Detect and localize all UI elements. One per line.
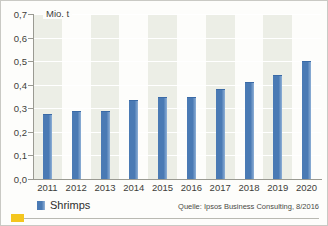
bar-2020 (302, 61, 311, 179)
y-axis-tick-label: 0,5 (1, 56, 27, 67)
bar-2011 (43, 114, 52, 179)
gridline (33, 61, 321, 62)
plot-area (33, 14, 321, 179)
y-axis-tick-label: 0,0 (1, 174, 27, 185)
y-axis-tick-label: 0,3 (1, 103, 27, 114)
chart-figure: Mio. t Shrimps Quelle: Ipsos Business Co… (0, 0, 328, 226)
y-axis-tick (28, 179, 33, 180)
y-axis-line (33, 14, 34, 180)
y-axis-tick (28, 38, 33, 39)
y-axis-tick-label: 0,2 (1, 126, 27, 137)
bar-2019 (273, 75, 282, 179)
bar-2013 (101, 111, 110, 179)
y-axis-tick (28, 155, 33, 156)
y-axis-tick (28, 14, 33, 15)
accent-mark (11, 214, 24, 222)
bar-2014 (129, 100, 138, 179)
y-axis-tick-label: 0,7 (1, 9, 27, 20)
bar-2012 (72, 111, 81, 179)
bar-2016 (187, 97, 196, 180)
legend-label-shrimps: Shrimps (50, 199, 90, 211)
bar-2018 (245, 82, 254, 179)
bar-2017 (216, 89, 225, 179)
y-axis-tick-label: 0,6 (1, 32, 27, 43)
x-axis-tick-label: 2020 (290, 182, 324, 193)
y-axis-tick (28, 108, 33, 109)
y-axis-tick-label: 0,4 (1, 79, 27, 90)
y-axis-unit-label: Mio. t (43, 8, 72, 19)
gridline (33, 38, 321, 39)
legend-swatch-shrimps (37, 201, 45, 210)
y-axis-tick-label: 0,1 (1, 150, 27, 161)
y-axis-tick (28, 85, 33, 86)
footer-rule (11, 218, 319, 219)
bar-2015 (158, 97, 167, 180)
y-axis-tick (28, 132, 33, 133)
chart-legend: Shrimps (37, 199, 90, 211)
gridline (33, 14, 321, 15)
x-axis-line (33, 179, 322, 180)
y-axis-tick (28, 61, 33, 62)
source-note: Quelle: Ipsos Business Consulting, 8/201… (178, 202, 319, 211)
